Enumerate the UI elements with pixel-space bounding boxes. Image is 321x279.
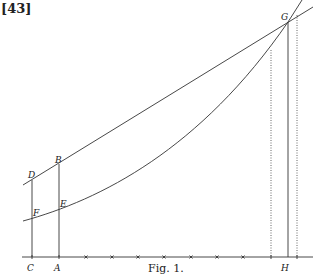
figure-caption: Fig. 1.: [148, 262, 184, 275]
upper-line: [23, 7, 313, 185]
figure-1: D B F E G C A H Fig. 1.: [0, 0, 321, 279]
lower-curve: [23, 0, 302, 221]
label-f: F: [32, 208, 40, 218]
label-a: A: [53, 263, 61, 273]
label-c: C: [27, 263, 34, 273]
label-d: D: [27, 170, 35, 180]
label-h: H: [280, 263, 289, 273]
label-g: G: [281, 12, 288, 22]
label-e: E: [59, 199, 67, 209]
label-b: B: [54, 155, 62, 165]
